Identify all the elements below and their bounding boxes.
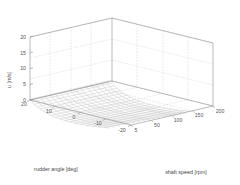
floor-back-left-edge — [30, 81, 112, 100]
axis-box-edges — [30, 18, 213, 125]
top-right-edge — [112, 18, 213, 43]
y-tick-label-50: 50 — [154, 122, 160, 128]
y-axis-title: shaft speed [rpm] — [165, 169, 207, 175]
y-tick-label-100: 100 — [174, 117, 183, 123]
grid-left-wall — [30, 18, 112, 100]
y-tick-label-200: 200 — [216, 108, 225, 114]
y-tick-label-5: 5 — [135, 127, 138, 133]
figure-canvas: 20 15 10 5 0 20 10 0 -10 -20 5 50 100 15… — [0, 0, 240, 185]
surface-plot-3d: 20 15 10 5 0 20 10 0 -10 -20 5 50 100 15… — [0, 0, 240, 185]
x-tick-label-neg20: -20 — [118, 127, 126, 133]
z-tick-label-10: 10 — [20, 65, 26, 71]
y-tick-label-150: 150 — [195, 112, 204, 118]
x-tick-label-10: 10 — [46, 108, 52, 114]
x-tick-label-20: 20 — [21, 101, 27, 107]
grid-right-wall — [112, 18, 213, 106]
x-tick-label-0: 0 — [73, 114, 76, 120]
z-tick-label-20: 20 — [20, 34, 26, 40]
z-axis-title: u [m/s] — [6, 71, 12, 88]
x-tick-label-neg10: -10 — [94, 120, 102, 126]
z-axis-ticks — [30, 36, 33, 100]
x-axis-title: rudder angle [deg] — [34, 166, 78, 172]
z-tick-label-5: 5 — [23, 81, 26, 87]
z-tick-label-15: 15 — [20, 50, 26, 56]
surface-mesh — [30, 81, 190, 129]
